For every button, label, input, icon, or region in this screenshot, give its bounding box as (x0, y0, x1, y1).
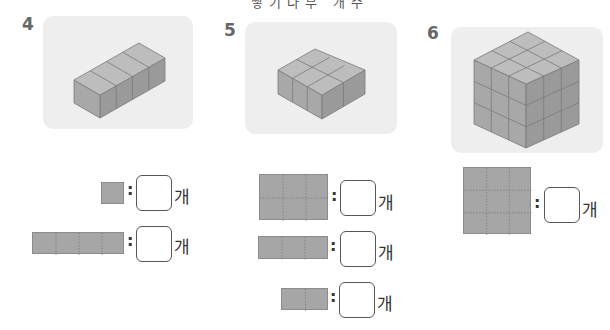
face-strip-1x3 (258, 236, 328, 259)
face-square-1x1 (101, 182, 124, 204)
grid-lines (33, 233, 125, 255)
cube-3x3x3-icon (451, 27, 603, 153)
answer-box-4-2[interactable] (136, 226, 172, 262)
grid-lines (464, 168, 532, 235)
unit-label: 개 (174, 233, 190, 258)
colon: : (127, 231, 133, 250)
problem-5-illustration (245, 22, 397, 134)
cube-slab-2x3-icon (245, 22, 397, 134)
answer-box-4-1[interactable] (136, 175, 172, 211)
colon: : (331, 186, 337, 205)
problem-number-6: 6 (427, 23, 439, 43)
face-rect-2x3 (259, 174, 328, 220)
problem-number-4: 4 (22, 14, 34, 34)
answer-box-5-2[interactable] (340, 231, 376, 267)
unit-label: 개 (378, 189, 394, 214)
answer-box-5-1[interactable] (340, 180, 376, 216)
colon: : (127, 180, 133, 199)
grid-lines (259, 237, 329, 260)
unit-label: 개 (174, 183, 190, 208)
page-title-partial: 쌓기나무 개수 (240, 0, 380, 4)
answer-box-6-1[interactable] (544, 187, 580, 223)
unit-label: 개 (378, 239, 394, 264)
grid-lines (282, 289, 329, 311)
problem-4-illustration (43, 16, 193, 129)
face-strip-1x2 (281, 288, 328, 310)
colon: : (330, 287, 336, 306)
face-strip-1x4 (32, 232, 124, 254)
unit-label: 개 (582, 196, 598, 221)
colon: : (330, 236, 336, 255)
problem-number-5: 5 (224, 20, 236, 40)
unit-label: 개 (377, 290, 393, 315)
answer-box-5-3[interactable] (339, 282, 375, 318)
face-square-3x3 (463, 167, 531, 234)
problem-6-illustration (451, 27, 603, 153)
colon: : (534, 193, 540, 212)
grid-lines (260, 175, 329, 221)
cube-row-1x4-icon (43, 16, 193, 129)
